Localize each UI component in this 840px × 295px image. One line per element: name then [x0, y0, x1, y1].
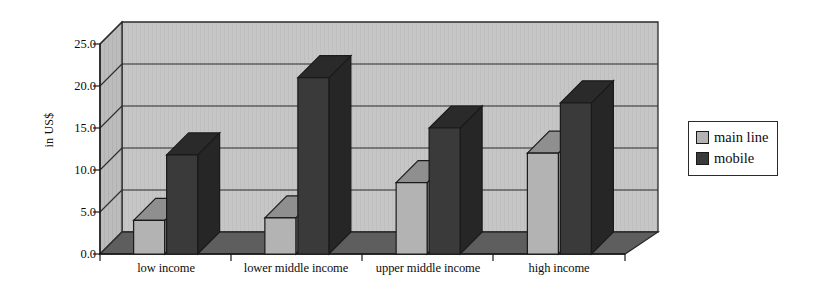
x-axis-labels: low income lower middle income upper mid…: [0, 261, 840, 287]
x-label-upper-middle-income: upper middle income: [376, 261, 480, 276]
chart-legend: main line mobile: [688, 121, 778, 176]
bar-lower-middle-income-mobile: [298, 56, 351, 254]
legend-item-main-line: main line: [696, 127, 768, 148]
y-axis-ticks: [93, 44, 100, 254]
chart-left-wall: [100, 22, 122, 254]
bar-high-income-mobile: [560, 81, 613, 254]
plot-area: [0, 0, 700, 295]
x-axis-ticks: [100, 254, 625, 261]
legend-label-main-line: main line: [714, 130, 768, 145]
legend-swatch-mobile: [696, 152, 709, 165]
legend-swatch-main-line: [696, 131, 709, 144]
legend-label-mobile: mobile: [714, 151, 754, 166]
x-label-high-income: high income: [528, 261, 589, 276]
x-label-low-income: low income: [137, 261, 195, 276]
x-label-lower-middle-income: lower middle income: [244, 261, 348, 276]
bar-upper-middle-income-mobile: [429, 106, 482, 254]
bar-chart: in US$ 25.0 20.0 15.0 10.0 5.0 0.0: [0, 0, 840, 295]
bar-low-income-mobile: [167, 133, 220, 254]
legend-item-mobile: mobile: [696, 148, 768, 169]
